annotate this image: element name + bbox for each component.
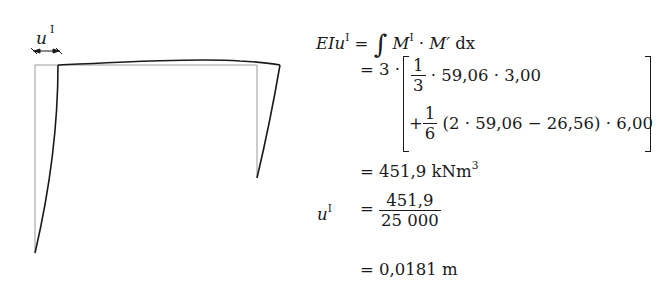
denominator: 25 000 — [379, 210, 441, 230]
lhs-u: u — [317, 205, 328, 224]
displacement-label-sup: I — [50, 23, 54, 36]
unit: kNm — [432, 162, 472, 181]
fraction-one-third: 1 3 — [411, 58, 426, 94]
unit-sup: 3 — [472, 159, 479, 171]
equals: = — [355, 34, 369, 53]
undeformed-frame — [35, 65, 257, 253]
equals: = — [360, 199, 374, 218]
value: 451,9 — [379, 162, 426, 181]
integral-sign: ∫ — [374, 29, 388, 59]
deformed-shape — [35, 60, 280, 253]
M-prime: M′ — [429, 34, 450, 53]
equals: = — [360, 260, 374, 279]
equals: = — [360, 162, 374, 181]
dot: · — [419, 34, 424, 53]
dx: dx — [455, 34, 475, 53]
equals: = — [360, 60, 374, 79]
equation-line-5: = 451,9 25 000 — [360, 193, 441, 229]
M-sup: I — [409, 31, 413, 43]
numerator: 451,9 — [379, 193, 441, 210]
equation-line-3: + 1 6 (2 · 59,06 − 26,56) · 6,00 — [409, 106, 653, 142]
equation-line-1: EIuI = ∫ MI · M′ dx — [316, 27, 475, 53]
equation-line-2-body: 1 3 · 59,06 · 3,00 — [411, 58, 541, 94]
term: · 59,06 · 3,00 — [431, 66, 541, 85]
deformed-frame-diagram: u I — [0, 0, 300, 290]
denominator: 6 — [423, 123, 438, 143]
lhs-EIu: EIu — [316, 34, 345, 53]
value: 0,0181 — [379, 260, 437, 279]
M-symbol: M — [392, 34, 409, 53]
displacement-label: u — [36, 28, 47, 48]
unit: m — [442, 260, 458, 279]
lhs-sup: I — [345, 31, 349, 43]
denominator: 3 — [411, 75, 426, 95]
fraction-result: 451,9 25 000 — [379, 193, 441, 229]
fraction-one-sixth: 1 6 — [423, 106, 438, 142]
term: (2 · 59,06 − 26,56) · 6,00 — [443, 114, 653, 133]
equation-line-2: = 3 · — [360, 62, 400, 79]
equation-line-5-lhs: uI — [317, 207, 332, 224]
equation-line-4: = 451,9 kNm3 — [360, 164, 478, 181]
displacement-dimension — [31, 48, 62, 54]
equation-line-6: = 0,0181 m — [360, 262, 458, 279]
lhs-sup: I — [328, 202, 332, 214]
plus: + — [409, 114, 423, 133]
numerator: 1 — [423, 106, 438, 123]
numerator: 1 — [411, 58, 426, 75]
factor: 3 · — [379, 60, 400, 79]
